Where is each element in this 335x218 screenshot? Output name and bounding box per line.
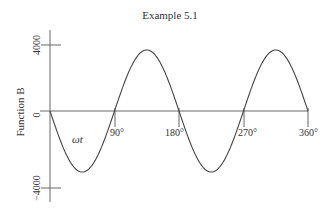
y-axis-label: Function B: [14, 87, 26, 136]
x-tick-label-270: 270°: [238, 127, 257, 138]
y-tick-label-0: 0: [31, 113, 42, 118]
x-tick-label-90: 90°: [110, 127, 124, 138]
x-tick-label-360: 360°: [299, 127, 318, 138]
x-axis-label: ωt: [72, 133, 84, 145]
chart: Example 5.1 4000 0 −4000 Function B 90° …: [0, 0, 335, 218]
x-tick-label-180: 180°: [165, 127, 184, 138]
chart-title: Example 5.1: [142, 9, 198, 21]
y-tick-label-neg4000: −4000: [31, 175, 42, 201]
y-tick-label-4000: 4000: [31, 35, 42, 55]
